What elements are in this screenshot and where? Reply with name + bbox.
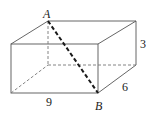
top-right-edge	[98, 21, 136, 44]
prism-diagram: A B 9 6 3	[0, 0, 154, 113]
point-label-a: A	[42, 7, 51, 21]
bottom-right-edge	[98, 65, 136, 93]
front-face	[11, 44, 98, 93]
diagonal-ab	[48, 21, 98, 93]
visible-edges	[11, 21, 136, 93]
width-label: 6	[122, 80, 128, 94]
point-label-b: B	[95, 99, 103, 113]
height-label: 3	[140, 37, 146, 51]
hidden-left-bottom-edge	[11, 65, 48, 93]
hidden-edges	[11, 21, 136, 93]
top-left-edge	[11, 21, 48, 44]
length-label: 9	[46, 95, 52, 109]
